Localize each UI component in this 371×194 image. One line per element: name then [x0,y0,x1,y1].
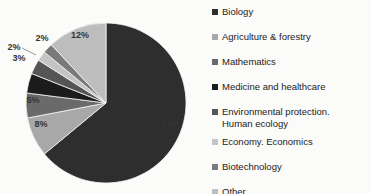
pie-chart: 64%8%5%3%2%2%12% [0,0,200,194]
legend-swatch [212,139,218,145]
legend-label: Biology [222,6,253,18]
legend-label-line1: Environmental protection. [222,106,330,117]
slice-label: 64% [162,119,180,129]
legend-label-line2: Human ecology [222,118,288,129]
legend: Biology Agriculture & forestry Mathemati… [212,6,371,194]
legend-swatch [212,9,218,15]
slice-label: 3% [12,53,25,63]
legend-item-biotechnology: Biotechnology [212,161,371,173]
legend-item-mathematics: Mathematics [212,56,371,68]
legend-label: Other [222,186,246,194]
legend-label: Economy. Economics [222,136,313,148]
legend-swatch [212,109,218,115]
legend-swatch [212,84,218,90]
slice-label: 12% [71,30,89,40]
legend-item-biology: Biology [212,6,371,18]
legend-label: Agriculture & forestry [222,31,311,43]
slice-label: 5% [26,95,39,105]
legend-swatch [212,34,218,40]
legend-item-other: Other [212,186,371,194]
legend-swatch [212,189,218,194]
legend-swatch [212,164,218,170]
legend-item-economy: Economy. Economics [212,136,371,148]
legend-swatch [212,59,218,65]
legend-label: Biotechnology [222,161,282,173]
legend-item-agriculture: Agriculture & forestry [212,31,371,43]
slice-label: 8% [34,119,47,129]
slice-label: 2% [35,33,48,43]
legend-item-environmental: Environmental protection.Human ecology [212,106,371,130]
slice-label: 2% [7,42,20,52]
legend-label: Medicine and healthcare [222,81,326,93]
legend-item-medicine: Medicine and healthcare [212,81,371,93]
legend-label: Environmental protection.Human ecology [222,106,330,130]
legend-label: Mathematics [222,56,276,68]
